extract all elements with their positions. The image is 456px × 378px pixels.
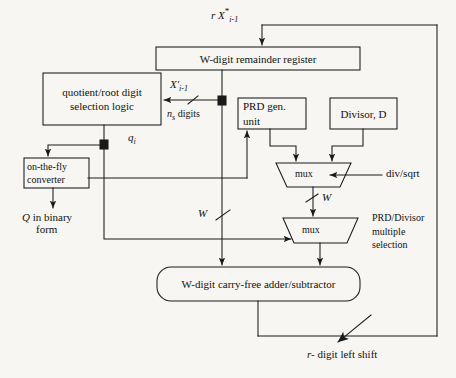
input-signal-sub: i-1 [229, 15, 238, 24]
feedback-path [90, 301, 259, 320]
multiple-selection-line3: selection [372, 238, 424, 252]
multiple-selection-label: PRD/Divisor multiple selection [372, 211, 424, 252]
converter-output-line2: form [22, 223, 72, 235]
quotient-digit-label: qi [128, 131, 136, 147]
input-signal-label: r X*i-1 [211, 6, 238, 25]
converter-label: on-the-fly converter [27, 158, 89, 188]
selection-logic-label: quotient/root digit selection logic [43, 73, 161, 125]
prd-gen-line1: PRD gen. [243, 99, 286, 113]
prd-gen-label: PRD gen. unit [243, 98, 305, 129]
diagram-canvas: r X*i-1 W-digit remainder register quoti… [0, 0, 456, 378]
multiple-selection-line1: PRD/Divisor [372, 211, 424, 225]
bus-width-mux-label: W [322, 191, 331, 203]
converter-line2: converter [27, 173, 65, 186]
adder-label: W-digit carry-free adder/subtractor [157, 267, 360, 301]
mux-bottom-label: mux [302, 224, 320, 235]
bus-width-left-label: W [198, 207, 207, 219]
shift-text: digit left shift [317, 348, 377, 360]
partial-remainder-label: X'i-1 [170, 78, 188, 94]
quotient-digit-sub: i [134, 137, 136, 146]
remainder-register-label: W-digit remainder register [156, 47, 360, 70]
partial-remainder-sub: i-1 [179, 84, 188, 93]
qi-to-converter [48, 145, 100, 156]
bus-slash-mux-w [306, 194, 318, 202]
shift-label: r- digit left shift [307, 348, 377, 360]
selection-logic-line2: selection logic [70, 99, 134, 113]
digits-word: digits [178, 108, 200, 119]
input-signal-base: r X [211, 9, 225, 21]
selection-logic-line1: quotient/root digit [62, 85, 142, 99]
mux-top-label: mux [295, 168, 313, 179]
converter-output-label: QQ in binary in binary form [22, 211, 72, 236]
mux-bottom-shape [283, 218, 358, 243]
shift-prefix: r- [307, 348, 315, 360]
divisor-to-mux [332, 129, 363, 161]
digits-label: ns digits [167, 108, 200, 123]
junction-node-qi [100, 140, 108, 149]
multiple-selection-line2: multiple [372, 225, 424, 239]
partial-remainder-base: X' [170, 78, 179, 90]
converter-line1: on-the-fly [27, 160, 67, 173]
bus-slash-w [216, 210, 230, 220]
digits-sub: s [172, 113, 175, 122]
prd-to-mux [270, 129, 296, 161]
divisor-label: Divisor, D [330, 98, 397, 129]
junction-node-remainder [218, 96, 226, 105]
shift-annotation-arrow [338, 315, 371, 342]
prd-gen-line2: unit [243, 114, 260, 128]
div-sqrt-label: div/sqrt [386, 167, 420, 179]
